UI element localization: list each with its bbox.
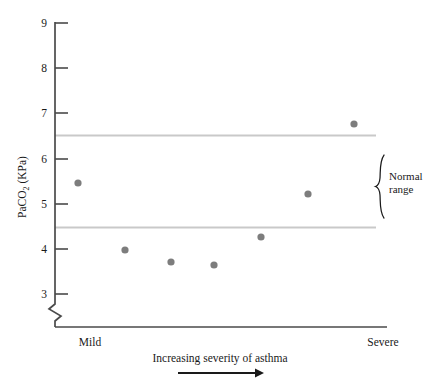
y-tick-label-7: 7 [41, 107, 47, 119]
data-point[interactable] [350, 120, 357, 127]
chart-background [0, 0, 442, 391]
y-tick-label-5: 5 [41, 198, 47, 210]
y-tick-label-9: 9 [41, 17, 47, 29]
x-category-label-mild: Mild [79, 336, 102, 348]
data-point[interactable] [257, 233, 264, 240]
y-axis-title-unit: (KPa) [16, 156, 29, 187]
data-point[interactable] [167, 258, 174, 265]
y-tick-label-3: 3 [41, 288, 47, 300]
data-point[interactable] [210, 261, 217, 268]
x-axis-title: Increasing severity of asthma [152, 352, 287, 365]
chart-figure: 9 8 7 6 5 4 3 PaCO2 (KPa) [0, 0, 442, 391]
x-category-label-severe: Severe [367, 336, 398, 348]
data-point[interactable] [121, 246, 128, 253]
y-axis-title-main: PaCO [16, 190, 28, 217]
data-point[interactable] [304, 190, 311, 197]
y-tick-label-6: 6 [41, 153, 47, 165]
data-point[interactable] [74, 179, 81, 186]
asthma-paco2-scatter-chart: 9 8 7 6 5 4 3 PaCO2 (KPa) [0, 0, 442, 391]
normal-range-label-line1: Normal [389, 170, 423, 182]
y-tick-label-8: 8 [41, 62, 47, 74]
y-tick-label-4: 4 [41, 243, 47, 255]
normal-range-label-line2: range [389, 183, 414, 195]
